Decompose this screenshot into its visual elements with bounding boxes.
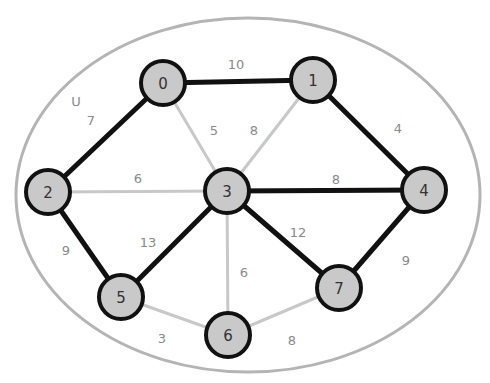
node-label: 2 [43, 184, 53, 202]
node-label: 6 [223, 327, 233, 345]
node-label: 5 [116, 289, 126, 307]
nodes-layer: 01234567 [26, 58, 446, 357]
node-label: 4 [419, 182, 429, 200]
edge-weight-3-4: 8 [332, 172, 340, 187]
node-label: 1 [308, 72, 318, 90]
edge-weight-0-1: 10 [228, 57, 245, 72]
node-5: 5 [99, 275, 143, 319]
edge-weight-3-6: 6 [240, 265, 248, 280]
boundary-label: U [71, 94, 81, 109]
node-1: 1 [291, 58, 335, 102]
node-label: 7 [334, 280, 344, 298]
node-3: 3 [205, 169, 249, 213]
node-4: 4 [402, 168, 446, 212]
edge-weight-2-3: 6 [134, 171, 142, 186]
edge-3-4 [227, 190, 424, 191]
edge-weight-2-5: 9 [62, 243, 70, 258]
graph-diagram: U 10758468913612938 01234567 [0, 0, 490, 383]
edge-weight-1-3: 8 [250, 123, 258, 138]
edge-2-3 [48, 191, 227, 192]
node-2: 2 [26, 170, 70, 214]
node-label: 3 [222, 183, 232, 201]
node-0: 0 [141, 61, 185, 105]
edge-weight-4-7: 9 [402, 253, 410, 268]
edge-weight-5-6: 3 [158, 331, 166, 346]
edge-weight-0-3: 5 [210, 123, 218, 138]
node-label: 0 [158, 75, 168, 93]
edge-weight-6-7: 8 [288, 333, 296, 348]
node-6: 6 [206, 313, 250, 357]
edge-weight-3-7: 12 [290, 225, 307, 240]
node-7: 7 [317, 266, 361, 310]
edge-weight-0-2: 7 [87, 113, 95, 128]
edge-weight-3-5: 13 [140, 235, 157, 250]
edge-weight-1-4: 4 [394, 121, 402, 136]
